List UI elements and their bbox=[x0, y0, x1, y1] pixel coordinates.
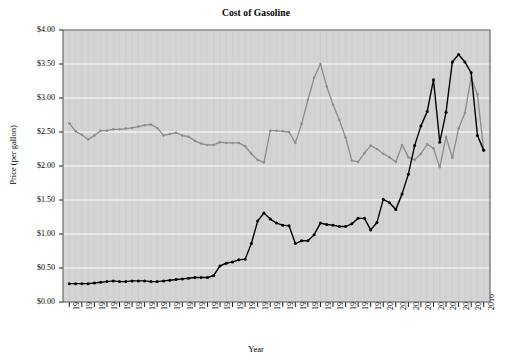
data-point bbox=[250, 153, 253, 156]
data-point bbox=[307, 99, 310, 102]
data-point bbox=[269, 218, 272, 221]
data-point bbox=[439, 166, 442, 169]
data-point bbox=[388, 201, 391, 204]
data-point bbox=[99, 129, 102, 132]
data-point bbox=[476, 134, 479, 137]
data-point bbox=[81, 133, 84, 136]
data-point bbox=[300, 239, 303, 242]
data-point bbox=[175, 278, 178, 281]
data-point bbox=[363, 152, 366, 155]
data-point bbox=[256, 220, 259, 223]
data-point bbox=[237, 258, 240, 261]
data-point bbox=[319, 63, 322, 66]
data-point bbox=[325, 223, 328, 226]
data-point bbox=[137, 279, 140, 282]
data-point bbox=[350, 222, 353, 225]
data-point bbox=[407, 173, 410, 176]
data-point bbox=[87, 138, 90, 141]
data-point bbox=[87, 282, 90, 285]
data-point bbox=[413, 159, 416, 162]
data-point bbox=[112, 279, 115, 282]
data-point bbox=[181, 277, 184, 280]
data-point bbox=[382, 153, 385, 156]
data-point bbox=[288, 224, 291, 227]
data-point bbox=[357, 161, 360, 164]
data-point bbox=[407, 156, 410, 159]
data-point bbox=[181, 134, 184, 137]
data-point bbox=[294, 142, 297, 145]
data-point bbox=[206, 276, 209, 279]
data-point bbox=[332, 224, 335, 227]
plot-area bbox=[0, 0, 512, 363]
data-point bbox=[193, 276, 196, 279]
data-point bbox=[212, 274, 215, 277]
data-point bbox=[200, 142, 203, 145]
data-point bbox=[306, 239, 309, 242]
data-point bbox=[225, 142, 228, 145]
data-point bbox=[124, 280, 127, 283]
data-point bbox=[200, 276, 203, 279]
data-point bbox=[282, 130, 285, 133]
data-point bbox=[106, 129, 109, 132]
data-point bbox=[275, 222, 278, 225]
data-point bbox=[344, 225, 347, 228]
data-point bbox=[457, 127, 460, 130]
data-point bbox=[93, 281, 96, 284]
data-point bbox=[476, 93, 479, 96]
data-point bbox=[256, 159, 259, 162]
data-point bbox=[451, 157, 454, 160]
data-point bbox=[375, 221, 378, 224]
data-point bbox=[388, 156, 391, 159]
data-point bbox=[99, 281, 102, 284]
data-point bbox=[118, 280, 121, 283]
data-point bbox=[225, 262, 228, 265]
data-point bbox=[244, 145, 247, 148]
data-point bbox=[426, 110, 429, 113]
data-point bbox=[187, 277, 190, 280]
data-point bbox=[332, 104, 335, 107]
data-point bbox=[238, 142, 241, 145]
data-point bbox=[325, 85, 328, 88]
data-point bbox=[168, 279, 171, 282]
data-point bbox=[219, 141, 222, 144]
data-point bbox=[218, 264, 221, 267]
data-point bbox=[463, 60, 466, 63]
data-point bbox=[313, 76, 316, 79]
data-point bbox=[482, 149, 485, 152]
data-point bbox=[262, 211, 265, 214]
data-point bbox=[231, 260, 234, 263]
data-point bbox=[369, 144, 372, 147]
data-point bbox=[288, 131, 291, 134]
data-point bbox=[149, 280, 152, 283]
data-point bbox=[464, 112, 467, 115]
data-point bbox=[150, 123, 153, 126]
data-point bbox=[438, 141, 441, 144]
data-point bbox=[401, 144, 404, 147]
chart-figure: Cost of Gasoline Price (per gallon) Year… bbox=[0, 0, 512, 363]
data-point bbox=[426, 143, 429, 146]
data-point bbox=[156, 127, 159, 130]
data-point bbox=[413, 144, 416, 147]
data-point bbox=[169, 133, 172, 136]
data-point bbox=[445, 136, 448, 139]
data-point bbox=[376, 148, 379, 151]
data-point bbox=[457, 53, 460, 56]
data-point bbox=[263, 161, 266, 164]
data-point bbox=[445, 111, 448, 114]
data-point bbox=[470, 71, 473, 74]
data-point bbox=[363, 217, 366, 220]
data-point bbox=[432, 78, 435, 81]
data-point bbox=[338, 119, 341, 122]
data-point bbox=[131, 127, 134, 130]
data-point bbox=[244, 258, 247, 261]
data-point bbox=[250, 242, 253, 245]
data-point bbox=[420, 153, 423, 156]
data-point bbox=[162, 134, 165, 137]
data-point bbox=[68, 122, 71, 125]
data-point bbox=[231, 142, 234, 145]
data-point bbox=[194, 140, 197, 143]
data-point bbox=[351, 159, 354, 162]
data-point bbox=[432, 147, 435, 150]
data-point bbox=[344, 136, 347, 139]
data-point bbox=[294, 242, 297, 245]
